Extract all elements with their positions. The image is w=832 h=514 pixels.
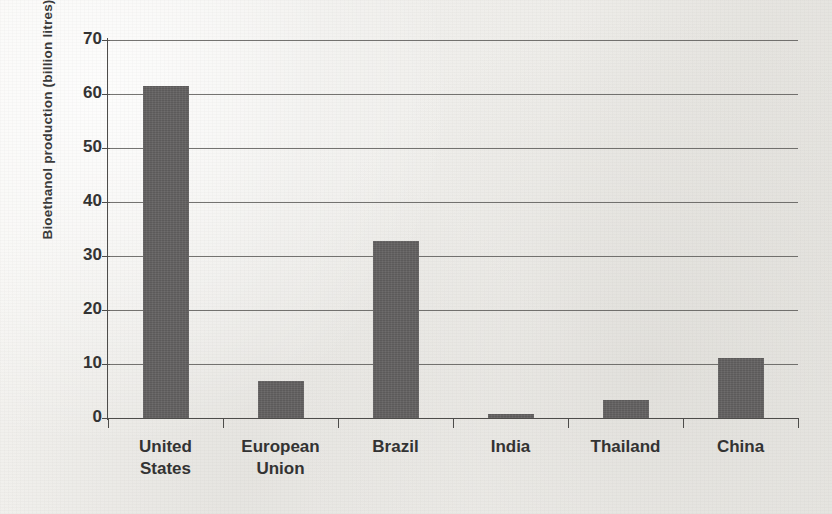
bar-united-states[interactable] — [143, 86, 189, 418]
bar-slot — [453, 40, 568, 418]
x-axis-tick-mark — [453, 419, 454, 428]
y-axis-tick-label: 70 — [56, 29, 102, 49]
x-axis-category-label: China — [683, 436, 798, 458]
x-axis-tick-mark — [683, 419, 684, 428]
x-axis-category-label: Brazil — [338, 436, 453, 458]
x-axis-label-line: Union — [223, 458, 338, 480]
bar-chart-figure: Bioethanol production (billion litres) 0… — [0, 0, 832, 514]
x-axis-label-line: United — [139, 437, 192, 456]
x-axis-category-label: India — [453, 436, 568, 458]
x-axis-category-label: UnitedStates — [108, 436, 223, 480]
x-axis-tick-group — [108, 419, 799, 429]
bar-china[interactable] — [718, 358, 764, 418]
x-axis-label-line: Brazil — [372, 437, 418, 456]
x-axis-label-line: India — [491, 437, 531, 456]
x-axis-tick-mark — [338, 419, 339, 428]
bar-brazil[interactable] — [373, 241, 419, 418]
y-axis-tick-label: 0 — [56, 407, 102, 427]
x-axis-category-label: EuropeanUnion — [223, 436, 338, 480]
bar-slot — [683, 40, 798, 418]
bars-layer — [108, 40, 798, 418]
x-axis-label-line: European — [241, 437, 319, 456]
y-axis-tick-label: 10 — [56, 353, 102, 373]
y-axis-tick-label: 30 — [56, 245, 102, 265]
y-axis-tick-group: 010203040506070 — [46, 40, 102, 418]
y-axis-tick-label: 40 — [56, 191, 102, 211]
bar-slot — [338, 40, 453, 418]
bar-slot — [223, 40, 338, 418]
x-axis-label-line: States — [108, 458, 223, 480]
y-axis-tick-label: 20 — [56, 299, 102, 319]
y-axis-tick-label: 60 — [56, 83, 102, 103]
bar-slot — [108, 40, 223, 418]
x-axis-tick-mark — [108, 419, 109, 428]
x-axis-label-line: China — [717, 437, 764, 456]
bar-slot — [568, 40, 683, 418]
bar-india[interactable] — [488, 414, 534, 418]
x-axis-label-group: UnitedStatesEuropeanUnionBrazilIndiaThai… — [108, 436, 798, 496]
bar-european-union[interactable] — [258, 381, 304, 418]
x-axis-category-label: Thailand — [568, 436, 683, 458]
x-axis-label-line: Thailand — [591, 437, 661, 456]
x-axis-tick-mark — [798, 419, 799, 428]
x-axis-tick-mark — [223, 419, 224, 428]
x-axis-tick-mark — [568, 419, 569, 428]
bar-thailand[interactable] — [603, 400, 649, 418]
y-axis-tick-label: 50 — [56, 137, 102, 157]
